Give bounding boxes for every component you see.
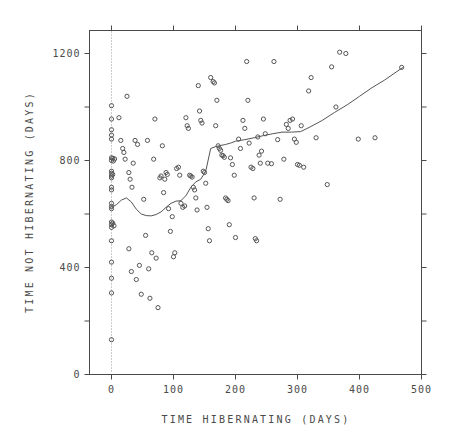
plot-frame: [85, 26, 427, 380]
data-point: [127, 247, 131, 251]
data-point: [131, 161, 135, 165]
data-point: [207, 239, 211, 243]
y-tick-label: 0: [73, 369, 80, 380]
data-point: [135, 142, 139, 146]
data-point: [241, 118, 245, 122]
data-point: [196, 84, 200, 88]
data-point: [261, 117, 265, 121]
data-point: [127, 170, 131, 174]
data-point: [247, 141, 251, 145]
data-point: [228, 156, 232, 160]
data-point: [129, 269, 133, 273]
data-point: [154, 256, 158, 260]
data-point: [309, 75, 313, 79]
x-axis-title: TIME HIBERNATING (DAYS): [161, 414, 350, 425]
data-point: [168, 229, 172, 233]
data-point: [299, 124, 303, 128]
y-tick-label: 800: [59, 155, 80, 166]
data-point: [276, 138, 280, 142]
data-point-layer: [109, 50, 403, 342]
data-point: [232, 173, 236, 177]
data-point: [119, 138, 123, 142]
data-point: [161, 191, 165, 195]
data-point: [178, 173, 182, 177]
data-point: [137, 263, 141, 267]
y-tick-label: 1200: [52, 48, 80, 59]
y-tick-label: 400: [59, 262, 80, 273]
data-point: [233, 235, 237, 239]
data-point: [314, 136, 318, 140]
data-point: [282, 157, 286, 161]
data-point: [338, 50, 342, 54]
data-point: [170, 215, 174, 219]
data-point: [356, 137, 360, 141]
data-point: [205, 205, 209, 209]
data-point: [307, 89, 311, 93]
scatter-plot-figure: 0100200300400500 04008001200 TIME HIBERN…: [0, 0, 456, 448]
y-axis-title: TIME NOT HIBERNATING (DAYS): [24, 91, 35, 313]
data-point: [259, 149, 263, 153]
data-point: [142, 197, 146, 201]
data-point: [156, 306, 160, 310]
data-point: [117, 116, 121, 120]
data-point: [145, 138, 149, 142]
data-point: [330, 65, 334, 69]
trend-line: [112, 67, 403, 215]
x-tick-label: 400: [349, 384, 370, 395]
data-point: [302, 165, 306, 169]
plot-canvas: 0100200300400500 04008001200 TIME HIBERN…: [0, 0, 456, 448]
y-axis-tick-labels: 04008001200: [52, 48, 80, 380]
data-point: [334, 105, 338, 109]
data-point: [204, 181, 208, 185]
data-point: [214, 124, 218, 128]
data-point: [252, 196, 256, 200]
x-tick-label: 0: [108, 384, 115, 395]
data-point: [152, 157, 156, 161]
data-point: [134, 277, 138, 281]
data-point: [227, 223, 231, 227]
data-point: [257, 153, 261, 157]
data-point: [153, 117, 157, 121]
data-point: [209, 75, 213, 79]
data-point: [123, 157, 127, 161]
data-point: [128, 177, 132, 181]
data-point: [148, 296, 152, 300]
data-point: [286, 126, 290, 130]
data-point: [133, 138, 137, 142]
data-point: [109, 260, 113, 264]
data-point: [344, 51, 348, 55]
data-point: [206, 227, 210, 231]
data-point: [325, 182, 329, 186]
data-point: [150, 251, 154, 255]
data-point: [144, 233, 148, 237]
data-point: [163, 177, 167, 181]
data-point: [278, 197, 282, 201]
x-tick-label: 100: [163, 384, 184, 395]
data-point: [125, 94, 129, 98]
data-point: [230, 162, 234, 166]
data-point: [122, 150, 126, 154]
data-point: [272, 59, 276, 63]
data-point: [184, 116, 188, 120]
data-point: [258, 161, 262, 165]
data-point: [130, 185, 134, 189]
x-axis-tick-labels: 0100200300400500: [108, 384, 432, 395]
x-tick-label: 300: [287, 384, 308, 395]
x-tick-label: 500: [411, 384, 432, 395]
data-point: [197, 109, 201, 113]
data-point: [166, 207, 170, 211]
data-point: [194, 196, 198, 200]
x-tick-label: 200: [225, 384, 246, 395]
data-point: [195, 208, 199, 212]
data-point: [243, 126, 247, 130]
data-point: [139, 292, 143, 296]
data-point: [173, 251, 177, 255]
data-point: [147, 267, 151, 271]
data-point: [245, 59, 249, 63]
data-point: [238, 146, 242, 150]
data-point: [160, 144, 164, 148]
data-point: [246, 98, 250, 102]
data-point: [215, 98, 219, 102]
data-point: [373, 136, 377, 140]
